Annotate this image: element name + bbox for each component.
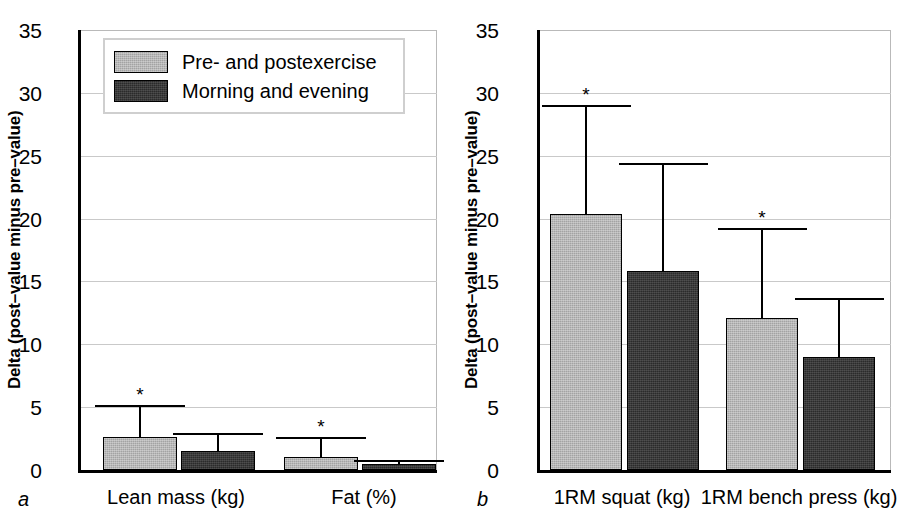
y-tick-label: 35 [461,20,499,41]
significance-star-squat-light: * [582,85,589,104]
errorbar-cap-fat-dark [354,460,444,462]
bar-1rm-squat-morning-and-evening [627,271,699,470]
plot-right-border [890,30,891,470]
errorbar-stem-fat-light [320,439,322,458]
significance-star-bench-light: * [758,208,765,227]
errorbar-stem-fat-dark [398,462,400,463]
errorbar-stem-squat-dark [662,165,664,272]
legend-swatch-light-gray [114,51,168,73]
bar-1rm-squat-pre-and-postexercise [550,214,622,471]
bar-1rm-bench-press-morning-and-evening [803,357,875,470]
panel-letter-a: a [18,489,29,509]
legend-entry-pre-and-postexercise: Pre- and postexercise [114,47,391,76]
y-tick-label: 10 [4,334,42,355]
bar-1rm-bench-press-pre-and-postexercise [726,318,798,470]
errorbar-stem-bench-dark [838,300,840,357]
figure-two-panel-bar-chart: Delta (post–value minus pre–value) 0 5 1… [0,0,917,524]
y-tick-label: 0 [4,460,42,481]
y-tick-label: 5 [4,397,42,418]
y-tick-label: 20 [4,209,42,230]
errorbar-cap-bench-light [718,228,807,230]
bar-lean-mass-morning-and-evening [181,451,255,470]
y-tick-label: 30 [4,83,42,104]
y-tick-label: 0 [461,460,499,481]
x-tick-label-fat: Fat (%) [331,487,397,507]
y-tick-label: 30 [461,83,499,104]
errorbar-stem-bench-light [761,230,763,318]
gridline-15 [81,281,437,282]
plot-top-border [81,30,437,31]
legend-label-morning-and-evening: Morning and evening [182,81,369,101]
y-tick-label: 20 [461,209,499,230]
errorbar-stem-lean-mass-light [139,407,141,437]
bar-fat-pre-and-postexercise [284,457,358,470]
gridline-10 [81,344,437,345]
y-tick-label: 25 [4,146,42,167]
gridline-25 [540,156,891,157]
legend-box: Pre- and postexercise Morning and evenin… [103,38,405,114]
panel-a-y-tick-labels: 0 5 10 15 20 25 30 35 [0,0,42,524]
bar-lean-mass-pre-and-postexercise [103,437,177,470]
legend-entry-morning-and-evening: Morning and evening [114,76,391,105]
y-tick-label: 15 [461,271,499,292]
gridline-25 [81,156,437,157]
legend-label-pre-and-postexercise: Pre- and postexercise [182,52,377,72]
x-tick-label-1rm-bench-press: 1RM bench press (kg) [701,487,898,507]
panel-b: Delta (post–value minus pre–value) 0 5 1… [457,0,915,524]
errorbar-cap-squat-light [542,105,631,107]
panel-letter-b: b [477,489,488,509]
x-tick-label-lean-mass: Lean mass (kg) [107,487,245,507]
legend-swatch-dark-gray [114,80,168,102]
bar-fat-morning-and-evening [362,464,436,470]
errorbar-cap-lean-mass-light [95,405,185,407]
errorbar-cap-bench-dark [795,298,884,300]
significance-star-fat-light: * [317,417,324,436]
significance-star-lean-mass-light: * [136,385,143,404]
gridline-5 [81,407,437,408]
errorbar-cap-lean-mass-dark [173,433,263,435]
panel-b-plot-area: * * [537,30,891,473]
errorbar-stem-lean-mass-dark [217,435,219,451]
errorbar-cap-squat-dark [619,163,708,165]
gridline-30 [540,93,891,94]
y-tick-label: 25 [461,146,499,167]
y-tick-label: 5 [461,397,499,418]
y-tick-label: 10 [461,334,499,355]
panel-b-y-tick-labels: 0 5 10 15 20 25 30 35 [457,0,499,524]
gridline-20 [81,219,437,220]
y-tick-label: 35 [4,20,42,41]
plot-right-border [436,30,437,470]
panel-a-plot-area: * * Pre- and postexercise [78,30,437,473]
panel-a: Delta (post–value minus pre–value) 0 5 1… [0,0,458,524]
y-tick-label: 15 [4,271,42,292]
errorbar-stem-squat-light [585,107,587,214]
plot-top-border [540,30,891,31]
x-tick-label-1rm-squat: 1RM squat (kg) [554,487,691,507]
